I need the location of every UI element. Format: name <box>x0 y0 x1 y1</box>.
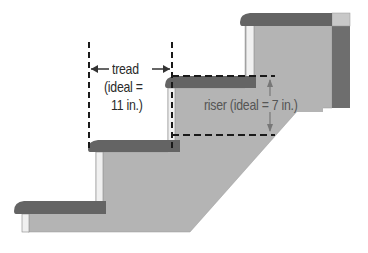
arrowhead-left-icon <box>91 65 98 73</box>
tread-3 <box>165 76 256 88</box>
riser-board-1 <box>22 214 29 232</box>
tread-4 <box>240 13 332 26</box>
stair-illustration <box>0 0 368 253</box>
landing-trim <box>332 13 350 26</box>
stringer <box>28 25 332 232</box>
tread-ideal-label: (ideal = <box>104 78 143 95</box>
riser-board-2 <box>96 152 103 204</box>
landing-post <box>332 26 350 108</box>
arrowhead-right-icon <box>163 65 170 73</box>
tread-value-label: 11 in.) <box>111 96 143 113</box>
tread-2 <box>88 140 180 152</box>
tread-label: tread <box>112 60 139 77</box>
riser-label: riser (ideal = 7 in.) <box>204 96 298 113</box>
tread-1 <box>14 201 106 214</box>
stair-diagram: tread (ideal = 11 in.) riser (ideal = 7 … <box>0 0 368 253</box>
